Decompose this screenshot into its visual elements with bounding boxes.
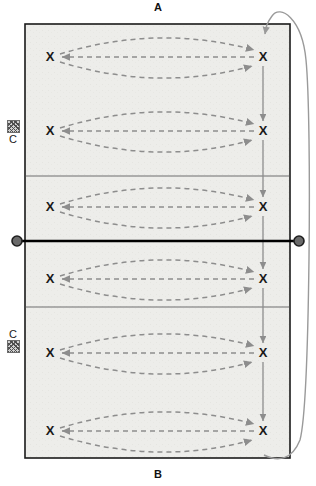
player-x-row4-left: X: [43, 272, 57, 286]
player-x-row5-left: X: [43, 346, 57, 360]
ball-cart-icon: [7, 340, 20, 353]
player-x-row5-right: X: [256, 346, 270, 360]
ball-cart-top: C: [2, 120, 24, 145]
label-side-b: B: [138, 468, 178, 480]
player-x-row6-right: X: [256, 424, 270, 438]
player-x-row4-right: X: [256, 272, 270, 286]
court-svg-canvas: [0, 0, 316, 486]
ball-cart-label: C: [2, 133, 24, 145]
ball-cart-bottom: C: [2, 328, 24, 353]
player-x-row1-right: X: [256, 50, 270, 64]
player-x-row3-left: X: [43, 200, 57, 214]
player-x-row6-left: X: [43, 424, 57, 438]
ball-cart-icon: [7, 120, 20, 133]
label-side-a: A: [138, 1, 178, 13]
net-post-left: [12, 236, 22, 246]
player-x-row2-left: X: [43, 124, 57, 138]
player-x-row1-left: X: [43, 50, 57, 64]
net-post-right: [294, 236, 304, 246]
player-x-row2-right: X: [256, 124, 270, 138]
volleyball-drill-diagram: X X X X X X X X X X X X A B C C: [0, 0, 316, 486]
player-x-row3-right: X: [256, 200, 270, 214]
ball-cart-label: C: [2, 328, 24, 340]
